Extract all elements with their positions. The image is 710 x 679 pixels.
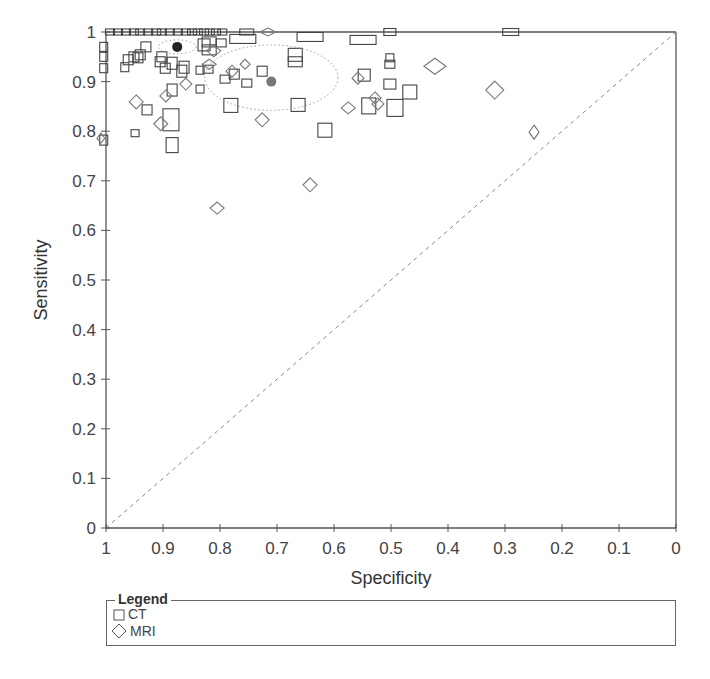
x-tick-label: 0 [671, 539, 680, 558]
mri-study-marker [486, 81, 504, 99]
mri-study-marker [240, 59, 250, 69]
y-tick-label: 0.3 [72, 370, 96, 389]
sroc-scatter-plot: 10.90.80.70.60.50.40.30.20.1000.10.20.30… [0, 0, 710, 679]
ct-study-marker [230, 34, 256, 43]
ct-study-marker [131, 130, 139, 137]
summary-point-mri [266, 77, 276, 87]
y-axis-title: Sensitivity [31, 239, 51, 320]
ct-study-marker [163, 109, 179, 131]
y-tick-label: 0.2 [72, 420, 96, 439]
ct-study-marker [179, 61, 189, 73]
mri-study-marker [180, 78, 192, 90]
y-tick-label: 0.8 [72, 122, 96, 141]
x-tick-label: 0.2 [550, 539, 574, 558]
y-tick-label: 0 [87, 519, 96, 538]
ct-study-marker [142, 105, 152, 115]
x-tick-label: 0.8 [208, 539, 232, 558]
x-tick-label: 0.3 [493, 539, 517, 558]
x-tick-label: 0.7 [265, 539, 289, 558]
mri-study-marker [210, 202, 224, 214]
mri-study-marker [303, 178, 317, 192]
legend-label-mri: MRI [130, 624, 156, 639]
ct-study-marker [288, 48, 302, 61]
y-tick-label: 0.5 [72, 271, 96, 290]
y-tick-label: 0.7 [72, 172, 96, 191]
ct-study-marker [166, 138, 178, 153]
axis-ticks: 10.90.80.70.60.50.40.30.20.1000.10.20.30… [72, 23, 680, 558]
reference-diagonal-line [106, 32, 676, 528]
y-tick-label: 0.6 [72, 221, 96, 240]
ct-study-marker [167, 84, 177, 96]
x-axis-title: Specificity [350, 568, 431, 588]
data-markers [97, 28, 539, 214]
x-tick-label: 1 [101, 539, 110, 558]
ct-study-marker [358, 69, 370, 81]
legend-item-mri: MRI [111, 623, 156, 639]
ct-study-marker [121, 63, 129, 72]
legend-item-ct: CT [111, 607, 147, 622]
ct-study-marker [297, 32, 323, 41]
summary-estimates [158, 40, 338, 110]
ct-study-marker [220, 75, 230, 83]
y-tick-label: 0.4 [72, 321, 96, 340]
ct-study-marker [123, 55, 133, 65]
ct-study-marker [350, 35, 376, 44]
ct-study-marker [196, 85, 204, 93]
ct-study-marker [242, 79, 252, 87]
x-tick-label: 0.1 [607, 539, 631, 558]
square-icon [111, 608, 125, 622]
y-tick-label: 0.1 [72, 469, 96, 488]
ct-study-marker [257, 66, 267, 76]
x-tick-label: 0.6 [322, 539, 346, 558]
mri-study-marker [529, 125, 539, 139]
legend: Legend CT MRI [106, 600, 676, 646]
legend-title: Legend [115, 591, 171, 607]
ct-study-marker [216, 39, 226, 47]
mri-study-marker [341, 102, 355, 114]
mri-study-marker [129, 95, 143, 109]
ct-study-marker [318, 123, 332, 137]
y-tick-label: 0.9 [72, 73, 96, 92]
mri-study-marker [372, 98, 384, 110]
mri-study-marker [154, 117, 168, 131]
x-tick-label: 0.9 [151, 539, 175, 558]
mri-study-marker [424, 58, 446, 74]
legend-label-ct: CT [128, 607, 147, 622]
ct-study-marker [177, 65, 187, 77]
diamond-icon [111, 623, 127, 639]
x-tick-label: 0.5 [379, 539, 403, 558]
ct-study-marker [291, 98, 305, 111]
x-tick-label: 0.4 [436, 539, 460, 558]
mri-study-marker [255, 113, 269, 127]
ct-study-marker [141, 42, 151, 52]
y-tick-label: 1 [87, 23, 96, 42]
ct-study-marker [384, 79, 396, 89]
ct-study-marker [403, 85, 417, 99]
ct-study-marker [387, 99, 403, 116]
summary-point-ct [172, 42, 182, 52]
